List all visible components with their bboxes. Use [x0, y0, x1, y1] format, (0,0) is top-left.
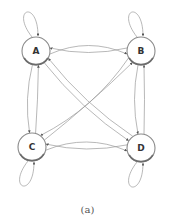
node-b: B	[127, 37, 155, 65]
node-label: D	[137, 143, 144, 153]
edge-c-to-a	[36, 65, 39, 133]
figure-caption: (a)	[0, 204, 175, 215]
edge-a-to-c	[27, 65, 32, 133]
node-a: A	[22, 37, 50, 65]
edge-b-to-a	[50, 48, 127, 53]
node-label: A	[33, 46, 40, 56]
edge-c-to-c	[20, 161, 34, 186]
edge-a-to-a	[24, 12, 38, 37]
edge-d-to-b	[144, 65, 145, 134]
node-c: C	[18, 133, 46, 161]
node-label: B	[138, 46, 145, 56]
edge-b-to-b	[129, 12, 143, 37]
node-d: D	[127, 134, 155, 162]
node-label: C	[29, 142, 36, 152]
edge-d-to-d	[129, 162, 143, 187]
edge-b-to-d	[135, 65, 139, 134]
graph-canvas: ABCD	[0, 0, 175, 200]
